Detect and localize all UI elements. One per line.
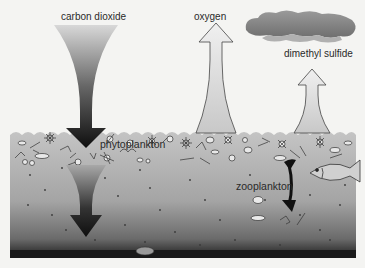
ocean-body — [10, 132, 356, 258]
ocean-carbon-cycle-diagram: carbon dioxide oxygen dimethyl sulfide p… — [0, 0, 365, 268]
carbon-dioxide-label: carbon dioxide — [61, 11, 126, 22]
carbon-dioxide-arrow — [54, 25, 118, 148]
zooplankton-label: zooplankton — [236, 180, 293, 192]
shell-icon — [136, 247, 154, 255]
phytoplankton-label: phytoplankton — [100, 138, 165, 150]
oxygen-arrow — [196, 23, 236, 133]
cloud-icon — [246, 11, 356, 43]
oxygen-label: oxygen — [194, 11, 226, 22]
diagram-canvas — [0, 0, 365, 268]
dimethyl-sulfide-arrow — [294, 69, 330, 133]
dimethyl-sulfide-label: dimethyl sulfide — [284, 48, 353, 59]
